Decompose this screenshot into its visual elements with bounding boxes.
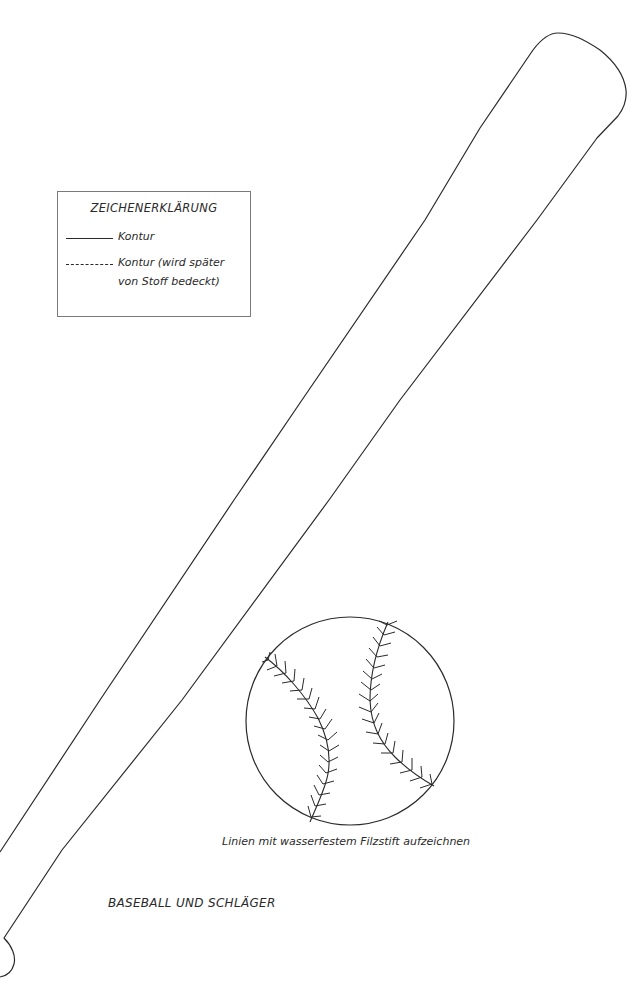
legend-item-label: Kontur bbox=[118, 228, 154, 246]
solid-line-sample bbox=[66, 238, 113, 239]
dashed-line-sample bbox=[66, 264, 113, 265]
page-title: BASEBALL UND SCHLÄGER bbox=[108, 896, 276, 910]
legend-box: ZEICHENERKLÄRUNG Kontur Kontur (wird spä… bbox=[57, 191, 251, 317]
baseball bbox=[246, 617, 454, 825]
ball-caption: Linien mit wasserfestem Filzstift aufzei… bbox=[222, 835, 470, 848]
legend-title: ZEICHENERKLÄRUNG bbox=[58, 201, 250, 215]
legend-item-label: Kontur (wird später bbox=[118, 254, 224, 272]
left-seam bbox=[265, 657, 329, 822]
legend-item-label-line2: von Stoff bedeckt) bbox=[118, 273, 220, 291]
